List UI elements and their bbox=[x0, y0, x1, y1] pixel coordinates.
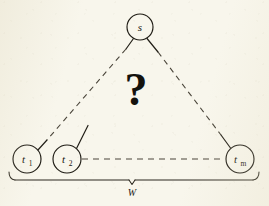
brace-center-tick bbox=[129, 180, 135, 185]
edge-s-t1 bbox=[38, 39, 134, 151]
question-mark-icon: ? bbox=[125, 64, 148, 115]
edge-t2-stub bbox=[77, 126, 89, 149]
brace-left-end bbox=[9, 172, 15, 180]
brace-right-end bbox=[253, 172, 259, 180]
node-tm[interactable]: t m bbox=[226, 145, 254, 173]
edge-s-tm-body bbox=[158, 52, 221, 135]
center-query-mark: ? bbox=[125, 64, 148, 115]
edge-t2-stub-line bbox=[77, 126, 89, 149]
node-tm-subscript: m bbox=[241, 159, 247, 168]
node-t2[interactable]: t 2 bbox=[53, 145, 81, 173]
edge-s-t1-head bbox=[126, 39, 134, 50]
diagram-canvas: s t 1 t 2 t m ? bbox=[0, 0, 269, 206]
node-s[interactable]: s bbox=[127, 14, 153, 40]
node-t1-circle bbox=[13, 145, 41, 173]
edge-s-tm-head bbox=[147, 39, 158, 53]
edge-s-t1-tail bbox=[38, 140, 48, 151]
edge-s-tm-tail bbox=[221, 135, 231, 148]
node-t1-subscript: 1 bbox=[29, 159, 33, 168]
node-t1[interactable]: t 1 bbox=[13, 145, 41, 173]
width-brace: W bbox=[9, 172, 259, 198]
brace-label-w: W bbox=[128, 187, 138, 198]
node-t2-subscript: 2 bbox=[69, 159, 73, 168]
node-t2-circle bbox=[53, 145, 81, 173]
node-s-label: s bbox=[138, 21, 142, 33]
edge-s-tm bbox=[147, 39, 231, 149]
figure-container: s t 1 t 2 t m ? bbox=[0, 0, 269, 206]
edge-s-t1-body bbox=[47, 49, 126, 140]
